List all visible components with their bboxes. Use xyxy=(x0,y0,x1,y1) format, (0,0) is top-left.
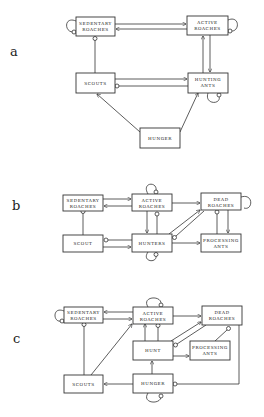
inhibitor-node xyxy=(215,210,219,214)
svg-text:HUNT: HUNT xyxy=(145,348,161,353)
edge-processing-inhibit-dead xyxy=(215,330,227,341)
svg-text:ACTIVE: ACTIVE xyxy=(141,198,162,203)
inhibitor-node xyxy=(93,37,97,41)
node-active-roaches: ACTIVE ROACHES xyxy=(187,16,228,35)
panel-b: b SEDENTARY ROACHES ACTIVE xyxy=(12,184,251,261)
svg-text:ROACHES: ROACHES xyxy=(70,316,97,321)
self-loop-dead xyxy=(241,196,251,208)
svg-text:PROCESSING: PROCESSING xyxy=(192,345,228,350)
inhibitor-node xyxy=(154,190,158,194)
node-hunting-ants: HUNTING ANTS xyxy=(188,73,228,93)
node-processing-ants: PROCESSING ANTS xyxy=(201,234,241,252)
inhibitor-node xyxy=(154,253,158,257)
svg-text:SCOUTS: SCOUTS xyxy=(72,382,94,387)
inhibitor-node xyxy=(115,84,119,88)
svg-text:SEDENTARY: SEDENTARY xyxy=(67,198,100,203)
svg-text:ROACHES: ROACHES xyxy=(82,27,109,32)
svg-text:ACTIVE: ACTIVE xyxy=(142,311,163,316)
inhibitor-node xyxy=(217,93,221,97)
svg-text:HUNGER: HUNGER xyxy=(148,136,172,141)
svg-text:SEDENTARY: SEDENTARY xyxy=(67,310,100,315)
svg-text:ANTS: ANTS xyxy=(200,83,216,88)
node-active-roaches: ACTIVE ROACHES xyxy=(132,194,172,211)
inhibitor-node xyxy=(173,382,177,386)
edge-dead-inhibit-hunters xyxy=(176,211,204,236)
svg-text:PROCESSING: PROCESSING xyxy=(203,238,239,243)
panel-c: c SEDENTARY ROACHES A xyxy=(13,298,242,402)
node-dead-roaches: DEAD ROACHES xyxy=(202,306,242,325)
edge-hunger-to-hunting xyxy=(180,93,198,132)
inhibitor-node xyxy=(155,212,159,216)
node-scout: SCOUT xyxy=(63,235,103,252)
svg-text:ROACHES: ROACHES xyxy=(194,26,221,31)
svg-text:ROACHES: ROACHES xyxy=(70,204,97,209)
node-scouts: SCOUTS xyxy=(64,375,103,393)
ant-roach-model-diagram: a SEDENTARY ROACHES ACTIVE ROACHES xyxy=(0,0,264,417)
self-loop-hunger xyxy=(147,393,161,402)
edge-hunger-to-scouts xyxy=(97,94,140,132)
inhibitor-node xyxy=(173,236,177,240)
svg-text:HUNTERS: HUNTERS xyxy=(139,241,166,246)
node-hunger: HUNGER xyxy=(133,374,173,393)
svg-text:ROACHES: ROACHES xyxy=(209,316,236,321)
edge-hunters-to-dead xyxy=(169,210,200,234)
node-hunt: HUNT xyxy=(133,341,173,360)
svg-text:HUNTING: HUNTING xyxy=(195,77,222,82)
svg-text:HUNGER: HUNGER xyxy=(141,381,165,386)
svg-text:ROACHES: ROACHES xyxy=(140,317,167,322)
svg-text:SCOUT: SCOUT xyxy=(74,241,93,246)
edge-scouts-to-active xyxy=(91,324,132,375)
node-hunger: HUNGER xyxy=(140,128,180,148)
svg-text:ROACHES: ROACHES xyxy=(208,203,235,208)
node-hunters: HUNTERS xyxy=(132,234,172,252)
panel-label-b: b xyxy=(12,198,20,213)
inhibitor-node xyxy=(60,319,64,323)
inhibitor-node xyxy=(159,394,163,398)
inhibitor-node xyxy=(72,30,76,34)
panel-label-c: c xyxy=(13,331,20,346)
node-active-roaches: ACTIVE ROACHES xyxy=(133,307,173,324)
inhibitor-node xyxy=(104,238,108,242)
svg-text:SEDENTARY: SEDENTARY xyxy=(79,21,112,26)
node-sedentary-roaches: SEDENTARY ROACHES xyxy=(64,307,103,323)
svg-text:ROACHES: ROACHES xyxy=(139,204,166,209)
panel-a: a SEDENTARY ROACHES ACTIVE ROACHES xyxy=(10,16,237,148)
svg-text:ACTIVE: ACTIVE xyxy=(196,20,217,25)
inhibitor-node xyxy=(159,303,163,307)
svg-text:SCOUTS: SCOUTS xyxy=(84,81,106,86)
node-dead-roaches: DEAD ROACHES xyxy=(201,193,241,210)
node-processing-ants: PROCESSING ANTS xyxy=(190,341,230,360)
inhibitor-node xyxy=(228,29,232,33)
panel-label-a: a xyxy=(10,44,18,59)
node-sedentary-roaches: SEDENTARY ROACHES xyxy=(63,195,103,211)
svg-text:ANTS: ANTS xyxy=(213,244,229,249)
node-scouts: SCOUTS xyxy=(76,73,115,93)
node-sedentary-roaches: SEDENTARY ROACHES xyxy=(76,17,115,36)
svg-text:DEAD: DEAD xyxy=(213,197,228,202)
inhibitor-node xyxy=(227,327,231,331)
svg-text:ANTS: ANTS xyxy=(202,351,218,356)
inhibitor-node xyxy=(174,343,178,347)
svg-text:DEAD: DEAD xyxy=(214,310,229,315)
